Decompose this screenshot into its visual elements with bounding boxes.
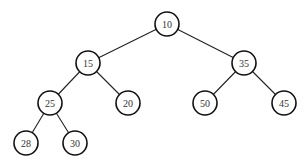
tree-node-45: 45 xyxy=(272,91,296,115)
tree-edges xyxy=(26,24,284,143)
node-label: 10 xyxy=(162,19,172,30)
node-label: 45 xyxy=(279,98,289,109)
node-label: 15 xyxy=(83,58,93,69)
tree-node-50: 50 xyxy=(193,91,217,115)
node-label: 25 xyxy=(45,98,55,109)
tree-node-20: 20 xyxy=(116,91,140,115)
tree-node-30: 30 xyxy=(63,131,87,155)
binary-tree-diagram: 101535252050452830 xyxy=(0,0,305,166)
tree-edge-10-15 xyxy=(88,24,167,63)
tree-node-10: 10 xyxy=(155,12,179,36)
tree-edge-10-35 xyxy=(167,24,244,63)
node-label: 20 xyxy=(123,98,133,109)
node-label: 28 xyxy=(21,138,31,149)
node-label: 50 xyxy=(200,98,210,109)
tree-node-25: 25 xyxy=(38,91,62,115)
node-label: 30 xyxy=(70,138,80,149)
tree-node-35: 35 xyxy=(232,51,256,75)
node-label: 35 xyxy=(239,58,249,69)
tree-node-15: 15 xyxy=(76,51,100,75)
tree-nodes: 101535252050452830 xyxy=(14,12,296,155)
tree-node-28: 28 xyxy=(14,131,38,155)
